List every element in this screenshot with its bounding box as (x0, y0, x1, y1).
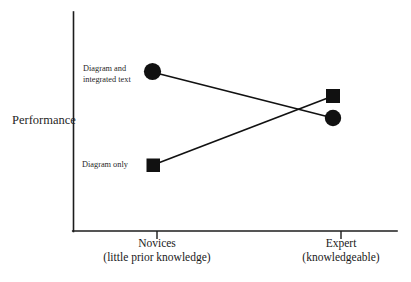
x-category-expert-sublabel: (knowledgeable) (261, 250, 411, 264)
series-label-line-2: integrated text (83, 75, 131, 84)
series-line-diagram-only (153, 96, 333, 165)
marker-diagram-only-expert (326, 89, 340, 103)
x-category-novices-name: Novices (77, 236, 237, 250)
y-axis-label: Performance (12, 113, 76, 128)
series-label-line-1: Diagram and (83, 64, 126, 73)
x-category-novices-sublabel: (little prior knowledge) (77, 250, 237, 264)
x-category-expert: Expert (knowledgeable) (261, 236, 411, 265)
expertise-reversal-chart: Performance Diagram andintegrated text D… (0, 0, 411, 282)
x-category-novices: Novices (little prior knowledge) (77, 236, 237, 265)
marker-diagram-and-integrated-text-novices (144, 63, 161, 80)
marker-diagram-and-integrated-text-expert (325, 110, 341, 126)
x-category-expert-name: Expert (261, 236, 411, 250)
marker-diagram-only-novices (147, 159, 161, 173)
series-label-diagram-only: Diagram only (82, 160, 144, 170)
series-label-diagram-and-integrated-text: Diagram andintegrated text (83, 63, 146, 85)
series-line-diagram-and-integrated-text (152, 72, 333, 118)
